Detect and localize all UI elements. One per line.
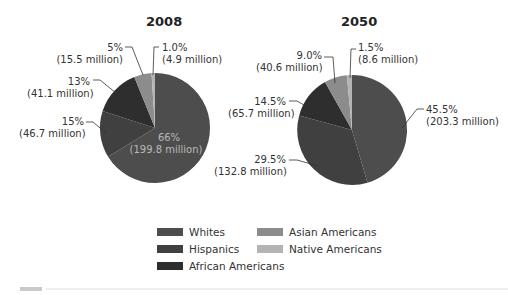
bottom-strip-decoration: [20, 287, 42, 291]
chart-title-2050: 2050: [341, 14, 377, 29]
label-2008-asian: 5% (15.5 million): [66, 42, 123, 66]
label-2008-whites: 66% (199.8 million): [134, 132, 204, 156]
label-2050-native: 1.5% (8.6 million): [358, 42, 418, 66]
swatch-asian-icon: [257, 228, 283, 236]
pie-2008: [86, 47, 210, 183]
bottom-divider: [46, 288, 508, 290]
label-2050-african: 14.5% (65.7 million): [228, 96, 286, 120]
label-2050-whites: 45.5% (203.3 million): [426, 104, 499, 128]
legend-item-whites: Whites: [157, 226, 225, 238]
legend-item-hispanics: Hispanics: [157, 243, 239, 255]
label-2050-hispanics: 29.5% (132.8 million): [224, 154, 286, 178]
swatch-whites-icon: [157, 228, 183, 236]
label-2008-native: 1.0% (4.9 million): [162, 42, 222, 66]
label-2050-asian: 9.0% (40.6 million): [262, 50, 322, 74]
legend-item-african-americans: African Americans: [157, 260, 284, 272]
chart-title-2008: 2008: [146, 14, 182, 29]
label-2008-african: 13% (41.1 million): [32, 76, 90, 100]
label-2008-hispanics: 15% (46.7 million): [24, 116, 84, 140]
swatch-native-icon: [257, 245, 283, 253]
swatch-african-icon: [157, 262, 183, 270]
legend-item-asian-americans: Asian Americans: [257, 226, 376, 238]
swatch-hispanics-icon: [157, 245, 183, 253]
legend-item-native-americans: Native Americans: [257, 243, 382, 255]
